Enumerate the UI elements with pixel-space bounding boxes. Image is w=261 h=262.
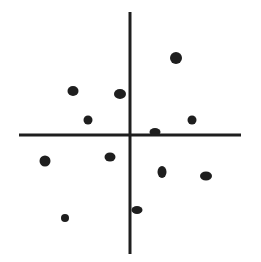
- data-point-dot: [150, 128, 161, 136]
- data-point-dot: [188, 116, 197, 125]
- diagram-svg: [0, 0, 261, 262]
- data-point-dot: [170, 52, 182, 64]
- data-point-dot: [68, 86, 79, 96]
- data-point-dot: [132, 206, 143, 214]
- data-point-dot: [158, 166, 167, 178]
- data-point-dot: [200, 172, 212, 181]
- data-point-dot: [40, 156, 51, 167]
- data-points-group: [40, 52, 213, 222]
- data-point-dot: [105, 153, 116, 162]
- data-point-dot: [61, 214, 69, 222]
- scatter-quadrant-diagram: [0, 0, 261, 262]
- data-point-dot: [114, 89, 126, 99]
- data-point-dot: [84, 116, 93, 125]
